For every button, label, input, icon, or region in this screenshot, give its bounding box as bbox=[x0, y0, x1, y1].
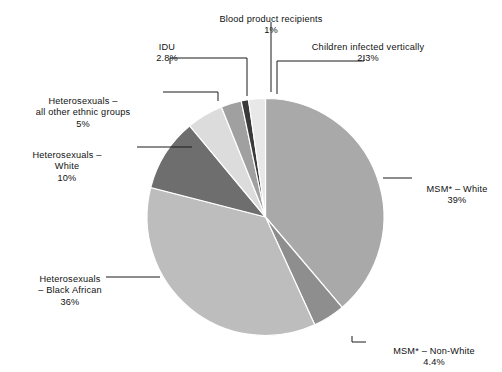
callout-children-infected-vertically: Children infected vertically 2.3% bbox=[288, 30, 448, 76]
callout-value-het-black: 36% bbox=[10, 297, 130, 309]
callout-heterosexuals-white: Heterosexuals – White 10% bbox=[2, 138, 132, 196]
callout-label-idu: IDU bbox=[159, 42, 175, 52]
callout-value-idu: 2.8% bbox=[122, 53, 212, 65]
callout-label-blood-product: Blood product recipients bbox=[220, 14, 323, 24]
callout-heterosexuals-all-other-ethnic-groups: Heterosexuals – all other ethnic groups … bbox=[8, 84, 158, 142]
callout-value-het-other: 5% bbox=[8, 119, 158, 131]
callout-label-msm-nonwhite: MSM* – Non-White bbox=[393, 346, 475, 356]
callout-value-children: 2.3% bbox=[288, 53, 448, 65]
pie-slices-group bbox=[147, 99, 384, 336]
callout-label-het-other: Heterosexuals – all other ethnic groups bbox=[36, 96, 131, 118]
callout-label-het-black: Heterosexuals – Black African bbox=[38, 274, 102, 296]
callout-label-children: Children infected vertically bbox=[312, 42, 424, 52]
leader-line-het-other bbox=[163, 92, 218, 101]
pie-chart-figure: Blood product recipients 1% IDU 2.8% Chi… bbox=[0, 0, 502, 372]
callout-heterosexuals-black-african: Heterosexuals – Black African 36% bbox=[10, 262, 130, 320]
callout-value-msm-white: 39% bbox=[414, 195, 500, 207]
callout-msm-non-white: MSM* – Non-White 4.4% bbox=[368, 334, 500, 372]
callout-msm-white: MSM* – White 39% bbox=[414, 172, 500, 218]
callout-label-het-white: Heterosexuals – White bbox=[32, 150, 101, 172]
callout-idu: IDU 2.8% bbox=[122, 30, 212, 76]
callout-value-het-white: 10% bbox=[2, 173, 132, 185]
callout-label-msm-white: MSM* – White bbox=[427, 184, 488, 194]
leader-line-msm-nonwhite bbox=[352, 336, 366, 342]
callout-value-msm-nonwhite: 4.4% bbox=[368, 357, 500, 369]
